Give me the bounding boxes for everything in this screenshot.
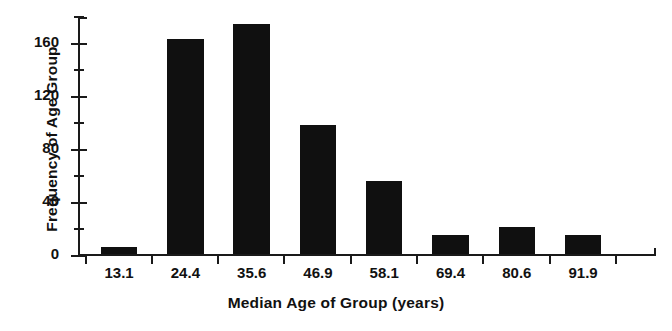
histogram-bar (233, 24, 269, 254)
histogram-bar (167, 39, 203, 254)
y-tick-minor (74, 228, 84, 230)
histogram-bar (366, 181, 402, 254)
histogram-bar (101, 247, 137, 254)
histogram-figure: Frequency of Age Group 04080120160 13.12… (0, 0, 672, 331)
x-tick-label: 46.9 (303, 264, 332, 281)
x-tick (350, 255, 352, 264)
x-axis-spine (78, 254, 656, 256)
y-tick-major: 80 (71, 149, 87, 151)
y-tick-major: 160 (71, 43, 87, 45)
x-tick-label: 24.4 (171, 264, 200, 281)
x-tick-label: 58.1 (370, 264, 399, 281)
y-tick-minor (74, 16, 84, 18)
y-tick-label: 160 (34, 33, 59, 50)
y-tick-major: 40 (71, 202, 87, 204)
histogram-bar (300, 125, 336, 254)
x-tick (85, 255, 87, 264)
y-tick-major: 120 (71, 96, 87, 98)
histogram-bar (432, 235, 468, 254)
x-tick (615, 255, 617, 264)
histogram-bar (499, 227, 535, 254)
x-tick (283, 255, 285, 264)
x-axis-end-cap (654, 248, 656, 256)
x-tick-label: 80.6 (502, 264, 531, 281)
y-tick-label: 40 (42, 192, 59, 209)
y-tick-minor (74, 69, 84, 71)
y-axis-spine (78, 17, 80, 256)
x-tick-label: 13.1 (104, 264, 133, 281)
x-tick-label: 69.4 (436, 264, 465, 281)
plot-area: 04080120160 (78, 17, 656, 256)
x-tick (416, 255, 418, 264)
histogram-bar (565, 235, 601, 254)
x-tick (482, 255, 484, 264)
y-tick-label: 120 (34, 86, 59, 103)
x-tick-label: 91.9 (568, 264, 597, 281)
y-tick-label: 80 (42, 139, 59, 156)
y-tick-label: 0 (51, 245, 59, 262)
y-tick-minor (74, 122, 84, 124)
x-tick (217, 255, 219, 264)
x-axis-title: Median Age of Group (years) (0, 294, 672, 312)
x-tick-label: 35.6 (237, 264, 266, 281)
x-tick (151, 255, 153, 264)
x-tick (549, 255, 551, 264)
y-tick-minor (74, 175, 84, 177)
